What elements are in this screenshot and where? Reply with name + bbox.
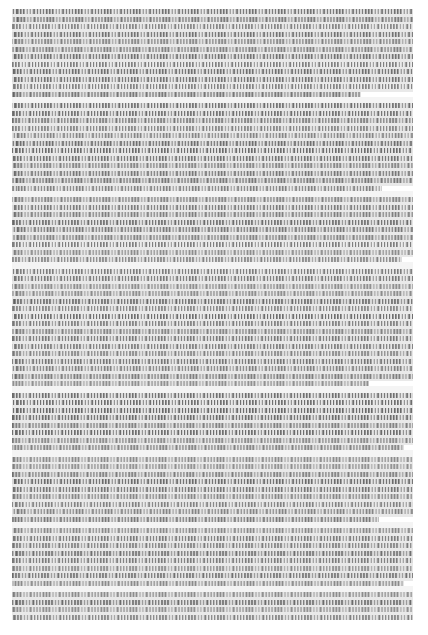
text-line-ink xyxy=(12,558,413,563)
text-line xyxy=(12,592,413,597)
text-line-ink xyxy=(12,235,413,240)
paragraph xyxy=(12,9,413,97)
text-line xyxy=(12,336,413,341)
text-line-ink xyxy=(12,336,413,341)
text-line-ink xyxy=(12,592,413,597)
text-line-ink xyxy=(12,148,413,153)
line-gap xyxy=(12,620,413,621)
text-line-ink xyxy=(12,366,413,371)
text-line-ink xyxy=(12,479,413,484)
text-line-ink xyxy=(12,178,413,183)
text-line-ink xyxy=(12,359,413,364)
text-line xyxy=(12,400,413,405)
text-line xyxy=(12,103,413,108)
text-line xyxy=(12,54,413,59)
text-line-ink xyxy=(12,47,413,52)
text-line xyxy=(12,509,413,514)
text-line-ink xyxy=(12,171,413,176)
paragraph xyxy=(12,269,413,387)
text-line xyxy=(12,92,413,97)
text-line xyxy=(12,487,413,492)
text-line-ink xyxy=(12,62,413,67)
text-line xyxy=(12,528,413,533)
text-line xyxy=(12,32,413,37)
text-line xyxy=(12,314,413,319)
text-line-ink xyxy=(12,186,382,191)
text-line-ink xyxy=(12,39,413,44)
text-line-ink xyxy=(12,284,413,289)
text-line xyxy=(12,250,413,255)
text-line-ink xyxy=(12,464,413,469)
text-line-ink xyxy=(12,156,413,161)
text-line xyxy=(12,299,413,304)
text-line xyxy=(12,566,413,571)
text-line-ink xyxy=(12,581,404,586)
text-line xyxy=(12,306,413,311)
text-line-ink xyxy=(12,250,413,255)
text-line-ink xyxy=(12,220,413,225)
text-line xyxy=(12,479,413,484)
text-line xyxy=(12,415,413,420)
text-line-ink xyxy=(12,291,413,296)
text-line-ink xyxy=(12,227,413,232)
text-line xyxy=(12,464,413,469)
text-line-ink xyxy=(12,133,413,138)
text-line-ink xyxy=(12,351,413,356)
text-line-ink xyxy=(12,457,413,462)
text-line-ink xyxy=(12,393,413,398)
paragraph xyxy=(12,528,413,586)
paragraph xyxy=(12,197,413,262)
text-line-ink xyxy=(12,607,413,612)
text-line-ink xyxy=(12,600,413,605)
text-line xyxy=(12,163,413,168)
text-line-ink xyxy=(12,111,413,116)
text-line-ink xyxy=(12,472,413,477)
text-line-ink xyxy=(12,374,413,379)
text-line xyxy=(12,212,413,217)
text-line-ink xyxy=(12,329,413,334)
text-line xyxy=(12,178,413,183)
text-line-ink xyxy=(12,321,413,326)
text-line-ink xyxy=(12,32,413,37)
text-line xyxy=(12,227,413,232)
text-line xyxy=(12,69,413,74)
text-line-ink xyxy=(12,517,379,522)
text-line xyxy=(12,141,413,146)
text-line-ink xyxy=(12,92,361,97)
text-line xyxy=(12,551,413,556)
text-line-ink xyxy=(12,269,413,274)
text-line xyxy=(12,126,413,131)
text-line xyxy=(12,9,413,14)
text-line-ink xyxy=(12,141,413,146)
text-line xyxy=(12,220,413,225)
text-line xyxy=(12,457,413,462)
text-line-ink xyxy=(12,299,413,304)
text-line xyxy=(12,351,413,356)
text-line xyxy=(12,600,413,605)
text-line-ink xyxy=(12,502,413,507)
text-line xyxy=(12,543,413,548)
text-line xyxy=(12,77,413,82)
text-line xyxy=(12,321,413,326)
text-line xyxy=(12,197,413,202)
text-line-ink xyxy=(12,445,404,450)
text-line xyxy=(12,133,413,138)
text-line xyxy=(12,148,413,153)
paragraph xyxy=(12,103,413,191)
text-line xyxy=(12,242,413,247)
text-line xyxy=(12,186,413,191)
body-text-block xyxy=(12,9,413,620)
text-line-ink xyxy=(12,257,402,262)
text-line xyxy=(12,423,413,428)
text-line-ink xyxy=(12,77,413,82)
text-line xyxy=(12,269,413,274)
text-line xyxy=(12,381,413,386)
text-line xyxy=(12,47,413,52)
text-line-ink xyxy=(12,400,413,405)
text-line-ink xyxy=(12,197,413,202)
text-line xyxy=(12,84,413,89)
text-line-ink xyxy=(12,276,413,281)
text-line-ink xyxy=(12,344,413,349)
text-line-ink xyxy=(12,306,413,311)
text-line xyxy=(12,291,413,296)
